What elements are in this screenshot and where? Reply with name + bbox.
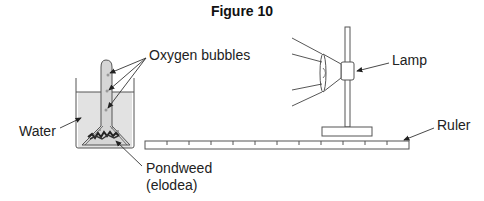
pondweed-sublabel: (elodea) [146, 177, 197, 194]
ruler-label: Ruler [437, 117, 470, 134]
ruler [145, 141, 409, 149]
lamp-label: Lamp [392, 52, 427, 69]
pondweed-label: Pondweed [146, 160, 212, 177]
ruler-pointer [404, 128, 434, 140]
oxygen-bubbles-label: Oxygen bubbles [149, 47, 250, 64]
experiment-diagram [0, 0, 484, 201]
lamp-pointer [357, 63, 389, 71]
water-label: Water [19, 123, 56, 140]
water-pointer [60, 118, 81, 128]
